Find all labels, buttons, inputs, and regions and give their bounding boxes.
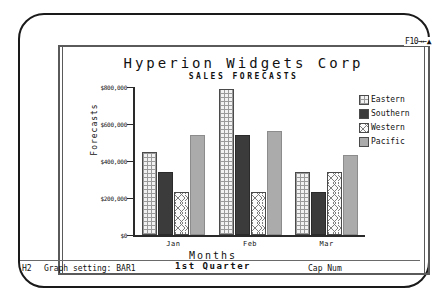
function-key-hint[interactable]: F10→←▲: [404, 37, 432, 46]
chart-subtitle: SALES FORECASTS: [63, 72, 424, 81]
bar-western-feb: [251, 192, 266, 235]
y-axis-tick-label: $200,000: [81, 195, 127, 202]
y-axis-tick-label: $600,000: [81, 121, 127, 128]
legend-swatch-pacific: [359, 137, 369, 147]
bar-southern-feb: [235, 135, 250, 235]
legend-swatch-eastern: [359, 95, 369, 105]
y-axis-tick-label: $800,000: [81, 84, 127, 91]
y-axis-tick: [127, 198, 135, 199]
x-axis-tick-label: Jan: [143, 240, 203, 248]
keyboard-indicators: Cap Num: [308, 264, 342, 273]
y-axis-tick-label-wrap: $200,000: [77, 198, 127, 199]
y-axis-tick-label: $400,000: [81, 158, 127, 165]
legend-swatch-southern: [359, 109, 369, 119]
y-axis-tick-label-wrap: $0: [77, 235, 127, 236]
frame-border-left: [58, 45, 60, 275]
bar-eastern-mar: [295, 172, 310, 235]
bar-western-mar: [327, 172, 342, 235]
cell-reference: H2: [22, 264, 32, 273]
y-axis-tick: [127, 124, 135, 125]
chart-canvas: Hyperion Widgets Corp SALES FORECASTS Fo…: [63, 47, 424, 273]
frame-border-right: [428, 45, 430, 275]
bar-southern-mar: [311, 192, 326, 235]
legend-label: Western: [371, 123, 405, 132]
x-axis-line: [133, 235, 365, 237]
bar-plot-region: [135, 87, 365, 235]
x-axis-tick-label: Mar: [297, 240, 357, 248]
y-axis-title: Forecasts: [90, 95, 99, 165]
bar-pacific-jan: [190, 135, 205, 235]
crt-bezel: F10→←▲ Hyperion Widgets Corp SALES FOREC…: [18, 13, 430, 288]
legend-item-eastern: Eastern: [359, 93, 429, 106]
application-frame: F10→←▲ Hyperion Widgets Corp SALES FOREC…: [58, 45, 430, 287]
legend-label: Southern: [371, 109, 410, 118]
legend-label: Pacific: [371, 137, 405, 146]
bar-eastern-jan: [142, 152, 157, 235]
bar-pacific-feb: [267, 131, 282, 235]
y-axis-tick: [127, 87, 135, 88]
y-axis-tick-label: $0: [81, 232, 127, 239]
status-bar: H2 Graph setting: BAR1 Cap Num: [20, 262, 428, 278]
bar-western-jan: [174, 192, 189, 235]
y-axis-tick-label-wrap: $800,000: [77, 87, 127, 88]
legend-item-southern: Southern: [359, 107, 429, 120]
legend-swatch-western: [359, 123, 369, 133]
graph-setting-text: Graph setting: BAR1: [44, 264, 136, 273]
legend-label: Eastern: [371, 95, 405, 104]
legend-item-pacific: Pacific: [359, 135, 429, 148]
bar-southern-jan: [158, 172, 173, 235]
legend-item-western: Western: [359, 121, 429, 134]
y-axis-tick-label-wrap: $400,000: [77, 161, 127, 162]
bar-pacific-mar: [343, 155, 358, 235]
chart-legend: EasternSouthernWesternPacific: [359, 93, 429, 149]
y-axis-tick: [127, 161, 135, 162]
y-axis-tick: [127, 235, 135, 236]
bar-eastern-feb: [219, 89, 234, 235]
x-axis-tick-label: Feb: [220, 240, 280, 248]
chart-title: Hyperion Widgets Corp: [63, 55, 424, 71]
y-axis-tick-label-wrap: $600,000: [77, 124, 127, 125]
frame-border-right-inner: [424, 45, 425, 275]
status-bar-rule: [20, 260, 420, 261]
